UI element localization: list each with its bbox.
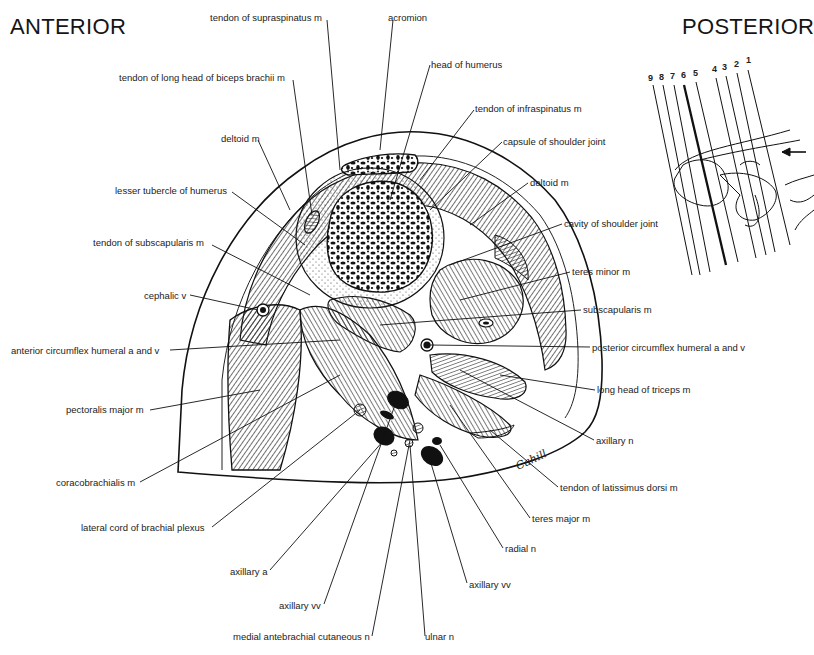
label-head-of-humerus: head of humerus	[431, 59, 502, 70]
label-posterior-circumflex: posterior circumflex humeral a and v	[592, 342, 745, 353]
label-pectoralis-major: pectoralis major m	[66, 404, 144, 415]
section-number-1: 1	[746, 55, 751, 66]
section-number-2: 2	[734, 59, 739, 70]
label-axillary-n: axillary n	[596, 435, 634, 446]
label-axillary-a: axillary a	[230, 566, 268, 577]
label-subscapularis: subscapularis m	[583, 304, 652, 315]
label-deltoid-left: deltoid m	[221, 133, 260, 144]
label-tendon-supraspinatus: tendon of supraspinatus m	[210, 12, 322, 23]
label-capsule-shoulder-joint: capsule of shoulder joint	[503, 136, 605, 147]
section-number-4: 4	[712, 64, 717, 75]
label-tendon-latissimus-dorsi: tendon of latissimus dorsi m	[560, 482, 678, 493]
label-tendon-long-head-biceps: tendon of long head of biceps brachii m	[119, 72, 285, 83]
section-orientation-inset	[653, 70, 814, 275]
label-deltoid-right: deltoid m	[530, 177, 569, 188]
label-teres-major: teres major m	[532, 513, 590, 524]
section-number-7: 7	[670, 71, 675, 82]
label-axillary-vv-right: axillary vv	[469, 579, 511, 590]
label-teres-minor: teres minor m	[572, 266, 630, 277]
label-cephalic-v: cephalic v	[144, 290, 186, 301]
shoulder-cross-section-illustration: Cahill	[0, 0, 814, 655]
section-number-6: 6	[681, 70, 686, 81]
label-coracobrachialis: coracobrachialis m	[56, 477, 135, 488]
label-cavity-shoulder-joint: cavity of shoulder joint	[564, 218, 658, 229]
label-medial-antebrachial-cutaneous: medial antebrachial cutaneous n	[233, 631, 370, 642]
label-long-head-triceps: long head of triceps m	[597, 384, 690, 395]
label-tendon-infraspinatus: tendon of infraspinatus m	[475, 103, 582, 114]
label-ulnar-n: ulnar n	[425, 631, 454, 642]
section-number-3: 3	[722, 62, 727, 73]
posterior-heading: POSTERIOR	[682, 14, 814, 40]
label-lesser-tubercle: lesser tubercle of humerus	[115, 185, 227, 196]
label-radial-n: radial n	[505, 543, 536, 554]
section-number-8: 8	[659, 72, 664, 83]
anterior-heading: ANTERIOR	[10, 14, 126, 40]
label-acromion: acromion	[388, 12, 427, 23]
section-number-5: 5	[693, 68, 698, 79]
label-anterior-circumflex: anterior circumflex humeral a and v	[11, 345, 159, 356]
label-tendon-subscapularis: tendon of subscapularis m	[93, 237, 204, 248]
label-lateral-cord: lateral cord of brachial plexus	[81, 522, 205, 533]
label-axillary-vv-left: axillary vv	[279, 600, 321, 611]
section-number-9: 9	[648, 73, 653, 84]
